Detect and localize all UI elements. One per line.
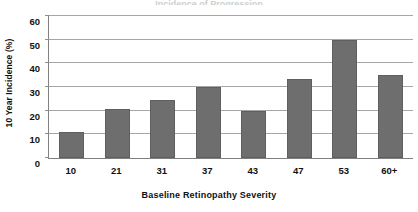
bar-slot (277, 16, 323, 158)
x-tick-label: 47 (276, 163, 322, 179)
bar (332, 40, 357, 158)
bar (105, 109, 130, 158)
bar-slot (368, 16, 414, 158)
bar (150, 100, 175, 158)
x-tick-label: 37 (185, 163, 231, 179)
bar (59, 132, 84, 158)
x-axis-title: Baseline Retinopathy Severity (0, 190, 418, 200)
y-axis-title: 10 Year Incidence (%) (0, 0, 18, 165)
x-tick-label: 60+ (367, 163, 413, 179)
bars-layer (49, 16, 413, 158)
bar (241, 111, 266, 158)
bar (378, 75, 403, 158)
y-axis-title-label: 10 Year Incidence (%) (4, 38, 14, 127)
y-axis-tick-labels: 0102030405060 (18, 16, 44, 158)
x-tick-label: 21 (94, 163, 140, 179)
bar-slot (231, 16, 277, 158)
bar-slot (95, 16, 141, 158)
chart-title-cropped: Incidence of Progression (0, 0, 418, 5)
bar-slot (322, 16, 368, 158)
bar (196, 87, 221, 158)
plot-area (48, 16, 413, 159)
bar-slot (186, 16, 232, 158)
x-tick-label: 31 (139, 163, 185, 179)
bar (287, 79, 312, 158)
bar-chart-figure: Incidence of Progression 10 Year Inciden… (0, 0, 418, 212)
bar-slot (140, 16, 186, 158)
x-axis-tick-labels: 1021313743475360+ (48, 163, 412, 179)
x-tick-label: 10 (48, 163, 94, 179)
x-tick-label: 43 (230, 163, 276, 179)
bar-slot (49, 16, 95, 158)
x-tick-label: 53 (321, 163, 367, 179)
